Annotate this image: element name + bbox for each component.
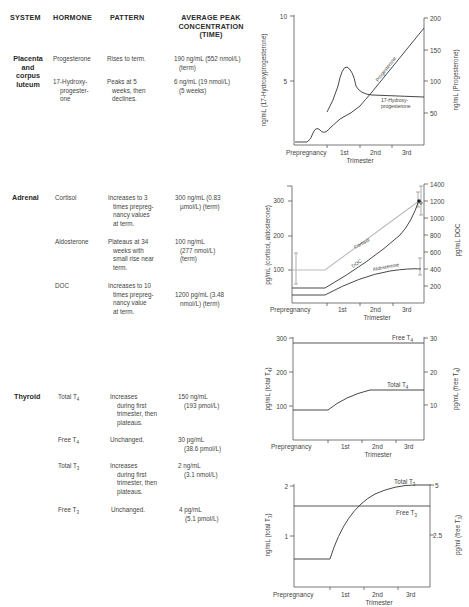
svg-text:100: 100 — [430, 78, 441, 85]
svg-text:1000: 1000 — [430, 215, 445, 222]
svg-text:2nd: 2nd — [372, 591, 383, 598]
svg-text:400: 400 — [430, 266, 441, 273]
svg-text:200: 200 — [430, 283, 441, 290]
tick-left-5: 5 — [283, 78, 287, 85]
svg-text:pg/mL (total T4): pg/mL (total T4) — [264, 367, 273, 410]
svg-text:1st: 1st — [341, 591, 350, 598]
svg-text:Prepregnancy: Prepregnancy — [271, 443, 312, 451]
svg-text:1st: 1st — [340, 149, 349, 156]
svg-text:800: 800 — [430, 232, 441, 239]
chart-adrenal: 300 200 100 1400 1200 1000 800 600 400 2… — [264, 181, 462, 321]
svg-text:100: 100 — [276, 403, 287, 410]
svg-text:200: 200 — [273, 232, 284, 239]
svg-text:200: 200 — [430, 15, 441, 22]
axis-label-right: ng/mL (Progesterone) — [452, 49, 460, 110]
svg-text:Total T4: Total T4 — [387, 381, 409, 390]
tick-left-10: 10 — [280, 13, 288, 20]
svg-text:Trimester: Trimester — [346, 157, 374, 164]
svg-text:1: 1 — [284, 533, 288, 540]
svg-text:Prepregnancy: Prepregnancy — [286, 149, 327, 157]
svg-text:Progesterone: Progesterone — [374, 55, 397, 83]
svg-text:5: 5 — [435, 482, 439, 489]
svg-text:300: 300 — [276, 335, 287, 342]
svg-text:pg/mL (free T4): pg/mL (free T4) — [452, 368, 461, 410]
svg-text:1st: 1st — [341, 443, 350, 450]
svg-text:300: 300 — [273, 197, 284, 204]
chart-placenta: 10 5 200 150 100 50 Prepregnancy 1st 2nd… — [260, 13, 460, 164]
svg-text:ng/mL (total T3): ng/mL (total T3) — [264, 513, 273, 556]
svg-text:Trimester: Trimester — [365, 599, 393, 606]
svg-text:3rd: 3rd — [404, 443, 414, 450]
chart-thyroid-t3: 2 1 5 2.5 Prepregnancy 1st 2nd 3rd Trime… — [264, 478, 463, 606]
svg-text:Free T3: Free T3 — [396, 509, 417, 518]
svg-text:2nd: 2nd — [370, 306, 381, 313]
svg-text:pg/mL (cortisol, aldosterone): pg/mL (cortisol, aldosterone) — [264, 205, 272, 285]
svg-text:Trimester: Trimester — [364, 451, 392, 458]
svg-text:1400: 1400 — [430, 181, 445, 188]
svg-text:2nd: 2nd — [372, 443, 383, 450]
svg-text:50: 50 — [430, 110, 438, 117]
svg-text:Trimester: Trimester — [363, 314, 391, 321]
svg-text:100: 100 — [273, 266, 284, 273]
svg-text:200: 200 — [276, 369, 287, 376]
svg-text:3rd: 3rd — [402, 306, 412, 313]
charts-layer: 10 5 200 150 100 50 Prepregnancy 1st 2nd… — [0, 0, 469, 607]
svg-text:Free T4: Free T4 — [392, 334, 413, 343]
svg-text:1200: 1200 — [430, 198, 445, 205]
svg-text:Cortisol: Cortisol — [353, 237, 371, 250]
svg-text:1st: 1st — [338, 306, 347, 313]
svg-text:30: 30 — [430, 335, 438, 342]
svg-text:10: 10 — [430, 402, 438, 409]
svg-text:2: 2 — [284, 483, 288, 490]
svg-text:2nd: 2nd — [370, 149, 381, 156]
svg-text:3rd: 3rd — [406, 591, 416, 598]
svg-text:pg/mL DOC: pg/mL DOC — [454, 223, 462, 256]
svg-text:Prepregnancy: Prepregnancy — [270, 306, 311, 314]
svg-text:DOC: DOC — [350, 257, 363, 269]
svg-text:2.5: 2.5 — [433, 532, 442, 539]
svg-text:Prepregnancy: Prepregnancy — [273, 591, 314, 599]
svg-text:3rd: 3rd — [402, 149, 412, 156]
svg-text:pg/ml (free T3): pg/ml (free T3) — [454, 515, 463, 555]
svg-text:20: 20 — [430, 369, 438, 376]
svg-text:150: 150 — [430, 47, 441, 54]
chart-thyroid-t4: 300 200 100 30 20 10 Prepregnancy 1st 2n… — [264, 334, 461, 458]
svg-text:progesterone: progesterone — [381, 103, 411, 109]
svg-text:600: 600 — [430, 249, 441, 256]
axis-label-left: ng/mL (17-Hydroxyprogesterone) — [260, 34, 268, 127]
